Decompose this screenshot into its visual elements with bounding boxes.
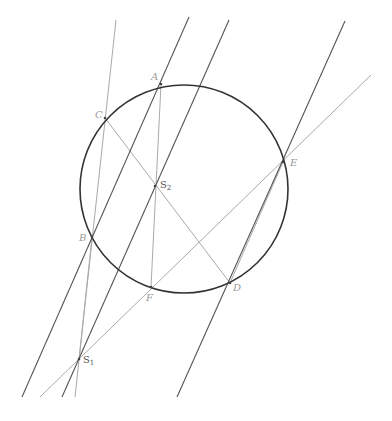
label-a: A — [150, 71, 158, 82]
label-s2: S2 — [160, 179, 171, 192]
point-s1 — [78, 358, 81, 361]
line-through-E-D — [177, 21, 345, 397]
point-d — [229, 282, 232, 285]
geometry-diagram: ACES2BFDS1 — [0, 0, 392, 421]
line-E-F-S1 — [40, 75, 371, 397]
light-lines — [40, 20, 371, 397]
point-b — [91, 236, 94, 239]
label-d: D — [232, 282, 241, 293]
point-a — [160, 83, 163, 86]
label-c: C — [95, 109, 103, 120]
point-e — [282, 161, 285, 164]
line-through-S2-S1 — [62, 20, 229, 397]
label-e: E — [289, 157, 298, 168]
label-b: B — [78, 232, 86, 243]
point-c — [104, 117, 107, 120]
segment-B-S1 — [79, 237, 92, 359]
segment-E-D-chord — [230, 162, 283, 283]
label-f: F — [145, 292, 154, 303]
dark-lines — [22, 17, 345, 397]
label-s1: S1 — [83, 354, 94, 367]
line-through-A-B — [22, 17, 189, 397]
point-s2 — [154, 185, 157, 188]
main-circle — [80, 85, 288, 293]
point-f — [150, 286, 153, 289]
